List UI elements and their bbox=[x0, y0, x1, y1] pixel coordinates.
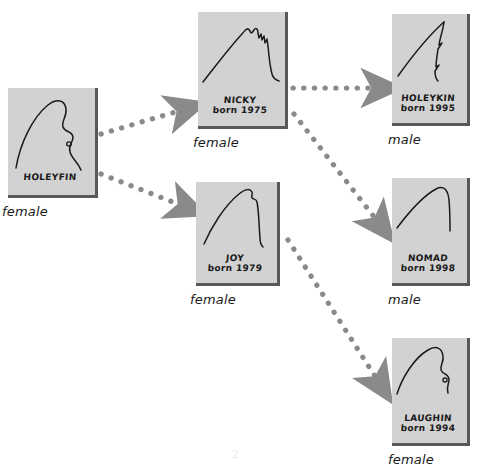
edge-holeyfin-joy bbox=[101, 174, 183, 206]
fin-sketch-laughin bbox=[392, 338, 467, 443]
fin-sketch-joy bbox=[196, 182, 277, 283]
fin-sketch-holeyfin bbox=[8, 88, 95, 195]
edge-nicky-nomad bbox=[294, 114, 378, 222]
node-holeyfin[interactable]: HOLEYFIN female bbox=[8, 88, 98, 198]
sex-label-holeyfin: female bbox=[2, 204, 48, 219]
fin-card-joy[interactable]: JOY born 1979 bbox=[196, 182, 280, 286]
sex-label-holeykin: male bbox=[388, 132, 421, 147]
pedigree-diagram: HOLEYFIN female NICKY born 1975 female bbox=[0, 0, 484, 471]
node-nomad[interactable]: NOMAD born 1998 male bbox=[392, 178, 470, 286]
node-holeykin[interactable]: HOLEYKIN born 1995 male bbox=[392, 14, 470, 126]
sex-label-joy: female bbox=[190, 292, 236, 307]
fin-sketch-nomad bbox=[392, 178, 467, 283]
fin-sketch-nicky bbox=[198, 12, 285, 126]
fin-card-laughin[interactable]: LAUGHIN born 1994 bbox=[392, 338, 470, 446]
fin-sketch-holeykin bbox=[392, 14, 467, 123]
fin-card-nomad[interactable]: NOMAD born 1998 bbox=[392, 178, 470, 286]
edge-joy-laughin bbox=[288, 240, 378, 381]
edge-holeyfin-nicky bbox=[101, 110, 182, 134]
node-laughin[interactable]: LAUGHIN born 1994 female bbox=[392, 338, 470, 446]
fin-card-holeyfin[interactable]: HOLEYFIN bbox=[8, 88, 98, 198]
fin-card-nicky[interactable]: NICKY born 1975 bbox=[198, 12, 288, 129]
fin-card-holeykin[interactable]: HOLEYKIN born 1995 bbox=[392, 14, 470, 126]
sex-label-nomad: male bbox=[388, 292, 421, 307]
node-nicky[interactable]: NICKY born 1975 female bbox=[198, 12, 288, 129]
node-joy[interactable]: JOY born 1979 female bbox=[196, 182, 280, 286]
sex-label-nicky: female bbox=[193, 135, 239, 150]
sex-label-laughin: female bbox=[388, 452, 434, 467]
